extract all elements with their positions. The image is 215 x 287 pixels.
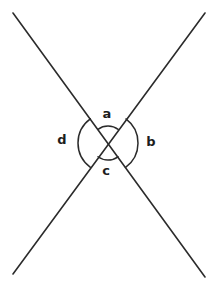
arc-b (126, 119, 138, 167)
arc-a (98, 126, 118, 129)
arc-d (78, 119, 90, 168)
angle-label-d: d (57, 132, 66, 147)
diagram-canvas: a b c d (0, 0, 215, 287)
angle-label-c: c (102, 163, 110, 178)
vertical-angles-diagram: a b c d (0, 0, 215, 287)
arc-c (98, 157, 118, 160)
angle-label-a: a (103, 106, 112, 121)
angle-label-b: b (146, 134, 155, 149)
